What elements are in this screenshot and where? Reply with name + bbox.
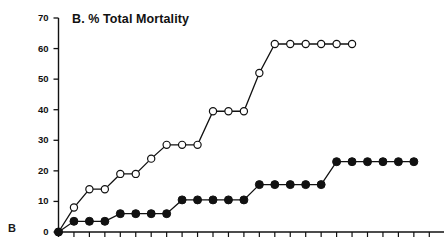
data-point-open-circles [225, 108, 232, 115]
data-point-open-circles [117, 170, 124, 177]
plot-area [0, 0, 444, 251]
data-point-open-circles [132, 170, 139, 177]
data-point-filled-circles [101, 217, 109, 225]
data-point-open-circles [194, 141, 201, 148]
data-point-open-circles [70, 204, 77, 211]
y-axis-tick-label: 30 [25, 134, 49, 145]
y-axis-tick-label: 70 [25, 12, 49, 23]
data-point-filled-circles [178, 196, 186, 204]
series-line-open-circles [59, 44, 353, 232]
data-point-filled-circles [410, 158, 418, 166]
data-point-filled-circles [70, 217, 78, 225]
data-point-filled-circles [364, 158, 372, 166]
data-series-group [55, 40, 418, 236]
data-point-filled-circles [132, 210, 140, 218]
data-point-open-circles [179, 141, 186, 148]
y-axis-tick-label: 20 [25, 165, 49, 176]
data-point-filled-circles [224, 196, 232, 204]
data-point-open-circles [318, 40, 325, 47]
data-point-filled-circles [85, 217, 93, 225]
data-point-filled-circles [116, 210, 124, 218]
data-point-filled-circles [317, 181, 325, 189]
data-point-open-circles [101, 186, 108, 193]
y-axis [54, 18, 59, 232]
data-point-filled-circles [255, 181, 263, 189]
data-point-filled-circles [302, 181, 310, 189]
data-point-open-circles [148, 155, 155, 162]
data-point-open-circles [86, 186, 93, 193]
data-point-open-circles [302, 40, 309, 47]
data-point-open-circles [348, 40, 355, 47]
series-open-circles [55, 40, 356, 235]
data-point-open-circles [333, 40, 340, 47]
data-point-open-circles [209, 108, 216, 115]
data-point-filled-circles [394, 158, 402, 166]
y-axis-tick-label: 50 [25, 73, 49, 84]
data-point-filled-circles [147, 210, 155, 218]
y-axis-tick-label: 0 [25, 226, 49, 237]
data-point-filled-circles [379, 158, 387, 166]
data-point-filled-circles [333, 158, 341, 166]
data-point-filled-circles [271, 181, 279, 189]
y-axis-tick-label: 40 [25, 104, 49, 115]
y-axis-tick-label: 60 [25, 43, 49, 54]
chart-figure: B B. % Total Mortality 706050403020100 [0, 0, 444, 251]
data-point-filled-circles [286, 181, 294, 189]
data-point-filled-circles [163, 210, 171, 218]
data-point-open-circles [256, 69, 263, 76]
data-point-filled-circles [240, 196, 248, 204]
data-point-filled-circles [194, 196, 202, 204]
data-point-open-circles [163, 141, 170, 148]
data-point-filled-circles [55, 228, 63, 236]
series-filled-circles [55, 158, 418, 236]
series-line-filled-circles [59, 162, 414, 232]
y-axis-tick-label: 10 [25, 195, 49, 206]
data-point-open-circles [271, 40, 278, 47]
data-point-filled-circles [209, 196, 217, 204]
data-point-open-circles [240, 108, 247, 115]
x-axis [59, 232, 444, 237]
data-point-filled-circles [348, 158, 356, 166]
data-point-open-circles [287, 40, 294, 47]
